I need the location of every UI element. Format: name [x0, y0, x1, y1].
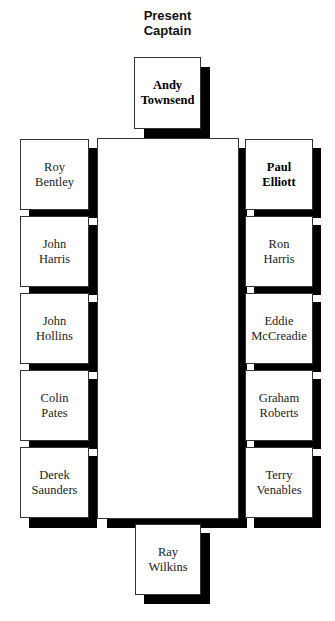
- seat-last-name: Bentley: [35, 175, 74, 190]
- seat-first-name: Ray: [158, 545, 178, 560]
- title-line-1: Present: [100, 8, 235, 23]
- captain-box: Andy Townsend: [134, 57, 201, 129]
- right-seat-4: Graham Roberts: [245, 370, 313, 441]
- left-seat-5: Derek Saunders: [20, 447, 89, 518]
- right-seat-5: Terry Venables: [245, 447, 313, 518]
- left-seat-3: John Hollins: [20, 293, 89, 364]
- seat-last-name: Venables: [256, 483, 301, 498]
- right-seat-2: Ron Harris: [245, 216, 313, 287]
- seat-first-name: John: [43, 314, 67, 329]
- right-seat-3: Eddie McCreadie: [245, 293, 313, 364]
- seat-first-name: John: [43, 237, 67, 252]
- seat-last-name: Pates: [41, 406, 67, 421]
- seat-first-name: Derek: [39, 468, 70, 483]
- seat-last-name: Elliott: [262, 175, 295, 190]
- seat-first-name: Roy: [44, 160, 65, 175]
- title-line-2: Captain: [100, 23, 235, 38]
- right-seat-1: Paul Elliott: [245, 139, 313, 210]
- captain-first-name: Andy: [153, 78, 182, 93]
- left-seat-4: Colin Pates: [20, 370, 89, 441]
- seat-last-name: Saunders: [32, 483, 78, 498]
- seat-last-name: McCreadie: [251, 329, 307, 344]
- seat-last-name: Harris: [263, 252, 294, 267]
- seat-first-name: Terry: [266, 468, 293, 483]
- seat-last-name: Roberts: [260, 406, 299, 421]
- left-seat-2: John Harris: [20, 216, 89, 287]
- seat-last-name: Wilkins: [148, 560, 187, 575]
- seat-first-name: Eddie: [264, 314, 293, 329]
- seat-last-name: Harris: [39, 252, 70, 267]
- left-seat-1: Roy Bentley: [20, 139, 89, 210]
- seat-first-name: Colin: [41, 391, 69, 406]
- seat-first-name: Ron: [269, 237, 290, 252]
- boardroom-table: [97, 138, 239, 519]
- bottom-seat: Ray Wilkins: [135, 524, 201, 595]
- present-captain-title: Present Captain: [100, 8, 235, 38]
- seat-last-name: Hollins: [36, 329, 73, 344]
- seat-first-name: Graham: [259, 391, 299, 406]
- captain-last-name: Townsend: [141, 93, 195, 108]
- seat-first-name: Paul: [267, 160, 291, 175]
